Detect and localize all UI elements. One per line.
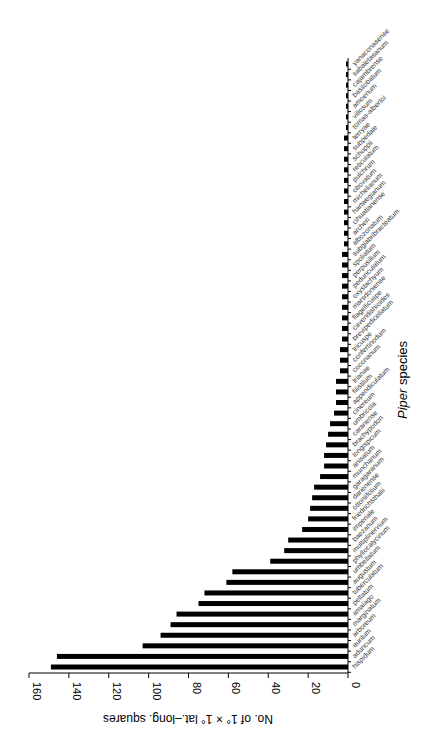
- bar: [344, 157, 348, 162]
- bar: [344, 188, 348, 193]
- tick-label: 80: [191, 682, 203, 694]
- value-axis: 020406080100120140160: [29, 673, 362, 700]
- bar: [344, 199, 348, 204]
- bar: [177, 612, 348, 617]
- bar: [342, 326, 348, 331]
- tick-label: 140: [71, 682, 83, 700]
- bar: [342, 273, 348, 278]
- bar: [342, 294, 348, 299]
- bar: [342, 284, 348, 289]
- bar: [336, 379, 348, 384]
- tick-label: 160: [31, 682, 43, 700]
- bar: [226, 580, 348, 585]
- bar: [344, 136, 348, 141]
- tick-label: 20: [310, 682, 322, 694]
- bar: [336, 400, 348, 405]
- bar: [314, 485, 348, 490]
- bar: [161, 633, 348, 638]
- category-labels: hispidumaduncumauritumarboreummarginatum…: [351, 27, 402, 670]
- bar: [204, 590, 348, 595]
- tick-label: 60: [230, 682, 242, 694]
- bar: [336, 389, 348, 394]
- bar: [270, 559, 348, 564]
- bar: [342, 337, 348, 342]
- tick-label: 40: [270, 682, 282, 694]
- tick-label: 120: [111, 682, 123, 700]
- bar: [344, 220, 348, 225]
- bars: [51, 62, 348, 670]
- bar: [51, 665, 348, 670]
- bar: [334, 411, 348, 416]
- bar: [308, 516, 348, 521]
- bar: [198, 601, 348, 606]
- bar: [342, 305, 348, 310]
- bar: [302, 527, 348, 532]
- bar: [232, 569, 348, 574]
- bar: [310, 506, 348, 511]
- bar: [284, 548, 348, 553]
- bar: [326, 442, 348, 447]
- bar: [340, 347, 348, 352]
- bar-chart: 020406080100120140160 hispidumaduncumaur…: [0, 0, 429, 751]
- bar: [324, 453, 348, 458]
- bar: [288, 538, 348, 543]
- bar: [312, 495, 348, 500]
- tick-label: 100: [151, 682, 163, 700]
- tick-label: 0: [350, 682, 362, 688]
- bar: [342, 263, 348, 268]
- bar: [342, 315, 348, 320]
- bar: [344, 167, 348, 172]
- bar: [330, 421, 348, 426]
- bar: [324, 464, 348, 469]
- bar: [344, 146, 348, 151]
- bar: [342, 252, 348, 257]
- bar: [57, 654, 348, 659]
- value-axis-title: No. of 1° × 1° lat.–long. squares: [103, 712, 273, 726]
- bar: [171, 622, 348, 627]
- bar: [344, 210, 348, 215]
- bar: [340, 368, 348, 373]
- bar: [320, 474, 348, 479]
- bar: [143, 643, 348, 648]
- category-axis-title: Piper species: [395, 340, 410, 419]
- bar: [328, 432, 348, 437]
- bar: [344, 178, 348, 183]
- bar: [344, 241, 348, 246]
- bar: [344, 231, 348, 236]
- bar: [340, 358, 348, 363]
